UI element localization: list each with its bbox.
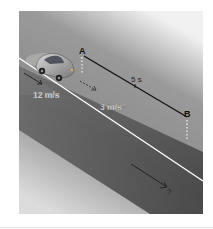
acceleration-label: 3 m/s2: [100, 102, 125, 112]
point-b-label: B: [184, 109, 191, 119]
bottom-divider: [0, 227, 213, 228]
motion-diagram: A B 5 s 12 m/s 3 m/s2 ?: [0, 0, 213, 229]
point-a-label: A: [79, 46, 86, 56]
initial-speed-label: 12 m/s: [33, 90, 60, 100]
acceleration-exponent: 2: [122, 102, 125, 108]
time-label: 5 s: [131, 75, 142, 84]
unknown-velocity-label: ?: [167, 187, 172, 196]
